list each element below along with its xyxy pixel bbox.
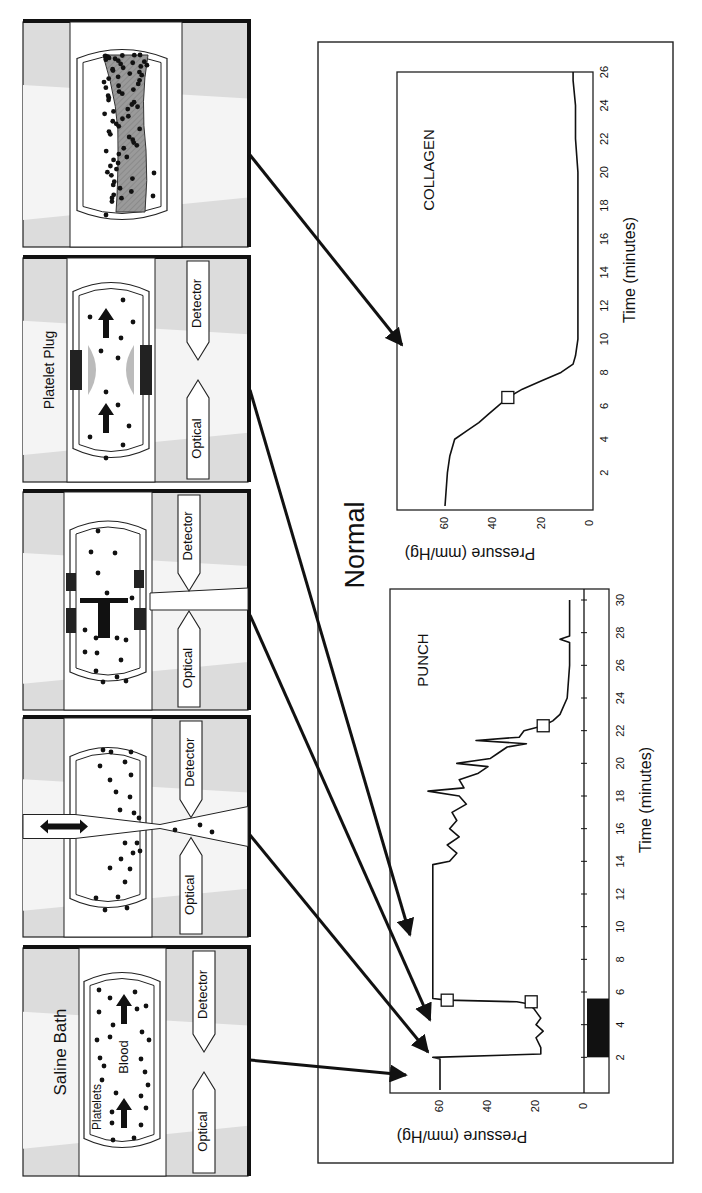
collagen-chart: COLLAGEN24681012141618202224260204060Tim… bbox=[397, 66, 638, 562]
platelet-dot bbox=[139, 73, 144, 78]
data-marker-square bbox=[441, 994, 453, 1006]
platelet-dot bbox=[198, 823, 203, 828]
detector-label: Detector bbox=[189, 278, 204, 328]
platelet-dot bbox=[138, 849, 143, 854]
platelet-dot bbox=[83, 628, 88, 633]
x-tick-label: 14 bbox=[598, 266, 610, 278]
y-axis-label: Pressure (mm/Hg) bbox=[405, 545, 536, 562]
platelet-dot bbox=[128, 795, 133, 800]
platelet-dot bbox=[101, 748, 106, 753]
platelet-dot bbox=[108, 164, 113, 169]
x-tick-label: 8 bbox=[598, 369, 610, 375]
x-tick-label: 14 bbox=[614, 855, 626, 867]
optical-label: Optical bbox=[195, 1111, 210, 1152]
platelet-dot bbox=[139, 1094, 144, 1099]
platelet-dot bbox=[114, 1091, 119, 1096]
optical-label: Optical bbox=[182, 874, 197, 915]
platelet-dot bbox=[129, 189, 134, 194]
platelet-dot bbox=[98, 1056, 103, 1061]
platelet-dot bbox=[116, 83, 121, 88]
platelet-dot bbox=[147, 1038, 152, 1043]
panel-adhesion: DetectorOptical bbox=[23, 489, 251, 710]
platelet-dot bbox=[102, 1064, 107, 1069]
platelet-dot bbox=[116, 403, 121, 408]
x-tick-label: 20 bbox=[614, 757, 626, 769]
platelet-dot bbox=[111, 109, 116, 114]
platelet-dot bbox=[98, 764, 103, 769]
platelet-dot bbox=[121, 298, 126, 303]
platelet-dot bbox=[104, 390, 109, 395]
x-tick-label: 4 bbox=[614, 1022, 626, 1028]
platelet-dot bbox=[134, 143, 139, 148]
platelet-dot bbox=[110, 1121, 115, 1126]
platelet-dot bbox=[116, 124, 121, 129]
platelet-dot bbox=[121, 146, 126, 151]
platelet-dot bbox=[152, 171, 157, 176]
platelet-dot bbox=[113, 551, 118, 556]
y-tick-label: 60 bbox=[433, 1100, 445, 1112]
x-tick-label: 30 bbox=[614, 594, 626, 606]
platelet-dot bbox=[120, 91, 125, 96]
x-tick-label: 24 bbox=[598, 99, 610, 111]
arrow-saline-bath bbox=[250, 1060, 406, 1075]
x-tick-label: 24 bbox=[614, 692, 626, 704]
platelet-dot bbox=[144, 1004, 149, 1009]
aggregate bbox=[134, 608, 146, 630]
platelet-dot bbox=[130, 60, 135, 65]
platelet-dot bbox=[130, 176, 135, 181]
platelet-dot bbox=[88, 435, 93, 440]
platelet-dot bbox=[126, 114, 131, 119]
platelet-dot bbox=[103, 57, 108, 62]
data-marker-square bbox=[537, 720, 549, 732]
platelet-aggregate-left bbox=[70, 350, 82, 390]
platelet-dot bbox=[115, 636, 120, 641]
platelet-dot bbox=[111, 183, 116, 188]
platelet-dot bbox=[108, 996, 113, 1001]
x-tick-label: 26 bbox=[614, 659, 626, 671]
platelet-dot bbox=[96, 571, 101, 576]
panel-shadow-right bbox=[247, 19, 251, 247]
platelet-dot bbox=[137, 127, 142, 132]
group-label-normal: Normal bbox=[340, 501, 370, 588]
optical-label: Optical bbox=[189, 418, 204, 459]
platelet-dot bbox=[111, 1138, 116, 1143]
platelet-dot bbox=[116, 74, 121, 79]
platelet-dot bbox=[127, 71, 132, 76]
panel-saline-bath: Saline BathPlateletsBloodDetectorOptical bbox=[23, 945, 251, 1176]
y-tick-label: 0 bbox=[577, 1103, 589, 1109]
x-tick-label: 10 bbox=[614, 921, 626, 933]
platelet-dot bbox=[108, 778, 113, 783]
panel-punch: DetectorOptical bbox=[23, 715, 251, 937]
panel-collagen-thrombus bbox=[23, 19, 251, 247]
detector-label: Detector bbox=[182, 737, 197, 787]
y-tick-label: 0 bbox=[583, 520, 595, 526]
aggregate bbox=[134, 570, 144, 588]
platelet-dot bbox=[101, 680, 106, 685]
data-marker-square bbox=[502, 392, 514, 404]
platelet-dot bbox=[108, 866, 113, 871]
platelet-dot bbox=[124, 679, 129, 684]
panel-shadow-right bbox=[247, 255, 251, 482]
platelet-dot bbox=[124, 155, 129, 160]
platelet-dot bbox=[115, 675, 120, 680]
x-tick-label: 22 bbox=[598, 133, 610, 145]
x-tick-label: 2 bbox=[598, 470, 610, 476]
detector-label: Detector bbox=[195, 969, 210, 1019]
platelet-dot bbox=[120, 53, 125, 58]
platelet-dot bbox=[129, 773, 134, 778]
platelet-dot bbox=[103, 908, 108, 913]
platelet-dot bbox=[119, 658, 124, 663]
platelet-dot bbox=[137, 816, 142, 821]
panel-title: Saline Bath bbox=[51, 1009, 70, 1096]
platelet-dot bbox=[83, 650, 88, 655]
platelet-dot bbox=[127, 424, 132, 429]
y-tick-label: 60 bbox=[438, 517, 450, 529]
platelet-dot bbox=[104, 456, 109, 461]
x-tick-label: 28 bbox=[614, 627, 626, 639]
platelet-dot bbox=[105, 591, 110, 596]
platelet-dot bbox=[139, 1123, 144, 1128]
platelet-dot bbox=[210, 830, 215, 835]
data-marker-square bbox=[525, 996, 537, 1008]
y-tick-label: 20 bbox=[529, 1100, 541, 1112]
platelet-dot bbox=[100, 1078, 105, 1083]
